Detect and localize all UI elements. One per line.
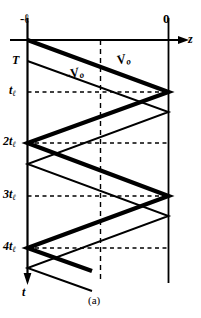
axis-tick-label-tl: tℓ <box>9 84 16 98</box>
t-axis-arrowhead <box>24 273 32 285</box>
axis-tick-label-zero: 0 <box>163 12 170 25</box>
axis-tick-label-minus-l: -ℓ <box>20 12 29 25</box>
axis-tick-label-3tl: 3tℓ <box>3 188 16 202</box>
axis-tick-label-2tl: 2tℓ <box>3 135 16 149</box>
axis-tick-label-4tl: 4tℓ <box>3 240 16 254</box>
axis-label-z: z <box>188 33 193 45</box>
figure-caption: (a) <box>88 295 100 306</box>
axis-label-t: t <box>22 286 25 298</box>
axis-tick-label-T: T <box>12 54 19 66</box>
bounce-diagram-figure: -ℓ 0 z T tℓ 2tℓ 3tℓ 4tℓ t Vo -Vo (a) <box>0 0 201 318</box>
bounce-diagram-svg <box>0 0 201 318</box>
